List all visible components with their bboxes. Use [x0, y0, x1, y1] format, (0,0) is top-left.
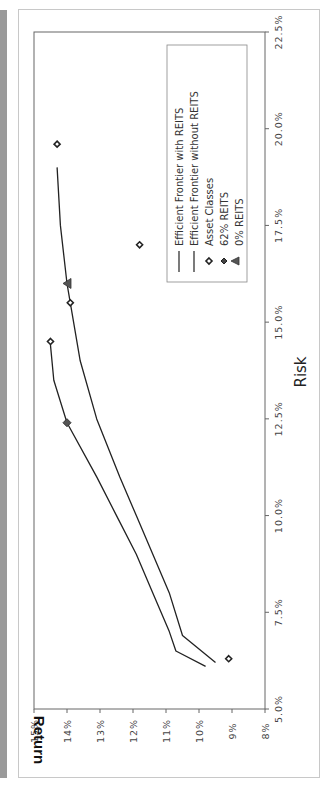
legend-label: 62% REITS	[219, 192, 230, 246]
x-tick-label: 10.0%	[273, 498, 284, 533]
y-tick-label: 12%	[128, 719, 139, 743]
y-tick-label: 10%	[194, 719, 205, 743]
x-tick-label: 17.5%	[273, 208, 284, 243]
efficient-frontier-chart: 5.0%7.5%10.0%12.5%15.0%17.5%20.0%22.5% 8…	[0, 0, 325, 797]
y-tick-label: 14%	[62, 719, 73, 743]
y-tick-label: 11%	[161, 719, 172, 743]
legend-label: Efficient Frontier with REITS	[174, 108, 185, 246]
y-tick-label: 9%	[227, 722, 238, 739]
x-axis-title: Risk	[292, 356, 310, 387]
legend: Efficient Frontier with REITS Efficient …	[167, 45, 247, 282]
legend-label: 0% REITS	[234, 198, 245, 246]
x-tick-label: 15.0%	[273, 305, 284, 340]
legend-label: Asset Classes	[204, 178, 215, 246]
y-tick-label: 13%	[95, 719, 106, 743]
y-axis-ticks: 8%9%10%11%12%13%14%15%	[29, 709, 271, 743]
y-axis-title: Return	[31, 716, 48, 764]
legend-label: Efficient Frontier without REITS	[189, 91, 200, 246]
legend-item-without-reits: Efficient Frontier without REITS	[189, 91, 200, 272]
x-tick-label: 7.5%	[273, 598, 284, 626]
x-tick-label: 5.0%	[273, 695, 284, 723]
x-tick-label: 22.5%	[273, 14, 284, 49]
x-axis-ticks: 5.0%7.5%10.0%12.5%15.0%17.5%20.0%22.5%	[265, 14, 284, 723]
x-tick-label: 12.5%	[273, 401, 284, 436]
x-tick-label: 20.0%	[273, 111, 284, 146]
y-tick-label: 8%	[260, 722, 271, 739]
